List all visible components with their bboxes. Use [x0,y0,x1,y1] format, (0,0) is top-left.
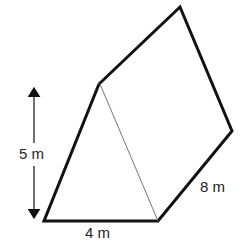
base-label: 4 m [85,224,110,241]
prism-diagram [0,0,252,250]
height-label: 5 m [19,145,44,162]
length-label: 8 m [200,178,225,195]
interior-edge [100,84,158,221]
